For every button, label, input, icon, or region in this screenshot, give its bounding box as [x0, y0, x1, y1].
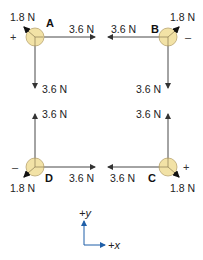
charge-c: 1.8 N C + 3.6 N 3.6 N: [108, 108, 195, 194]
sign-d: –: [12, 161, 19, 173]
sign-c: +: [183, 161, 189, 173]
force-label-d-horizontal: 3.6 N: [69, 172, 94, 184]
point-label-b: B: [151, 23, 159, 35]
force-label-c-vertical: 3.6 N: [136, 108, 161, 120]
charge-a: 1.8 N A + 3.6 N 3.6 N: [10, 11, 95, 95]
x-axis-label: +x: [108, 239, 120, 251]
force-label-b-vertical: 3.6 N: [136, 83, 161, 95]
point-label-a: A: [46, 17, 54, 29]
force-label-c-horizontal: 3.6 N: [110, 172, 135, 184]
force-label-d-vertical: 3.6 N: [42, 108, 67, 120]
force-arrow-b-diagonal: [175, 27, 180, 32]
point-label-d: D: [45, 172, 53, 184]
force-label-a-diagonal: 1.8 N: [10, 11, 35, 23]
force-diagram: 1.8 N A + 3.6 N 3.6 N 1.8 N B – 3.6 N 3.…: [0, 0, 203, 260]
force-arrow-a-diagonal: [24, 27, 29, 32]
force-label-a-vertical: 3.6 N: [42, 83, 67, 95]
y-axis-label: +y: [79, 207, 92, 219]
charge-b: 1.8 N B – 3.6 N 3.6 N: [108, 11, 195, 95]
coordinate-axes: +y +x: [79, 207, 120, 251]
sign-a: +: [10, 31, 16, 43]
point-label-c: C: [148, 172, 156, 184]
force-label-b-diagonal: 1.8 N: [170, 11, 195, 23]
charge-d: 1.8 N D – 3.6 N 3.6 N: [10, 108, 95, 194]
sign-b: –: [185, 31, 192, 43]
force-arrow-c-diagonal: [175, 173, 180, 178]
force-arrow-d-diagonal: [24, 173, 29, 178]
force-label-d-diagonal: 1.8 N: [10, 182, 35, 194]
force-label-b-horizontal: 3.6 N: [111, 23, 136, 35]
force-label-c-diagonal: 1.8 N: [170, 182, 195, 194]
force-label-a-horizontal: 3.6 N: [69, 23, 94, 35]
